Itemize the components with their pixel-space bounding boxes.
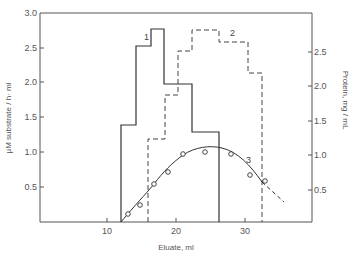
x-tick-10: 10 <box>102 226 112 236</box>
y-tick-1.5: 1.5 <box>24 112 37 122</box>
y2-tick-2.5: 2.5 <box>314 47 327 57</box>
left-y-axis-labels: 0.5 1.0 1.5 2.0 2.5 3.0 <box>24 8 37 192</box>
y-tick-1.0: 1.0 <box>24 147 37 157</box>
y2-tick-0.5: 0.5 <box>314 185 327 195</box>
series-3-curve <box>121 147 262 222</box>
marker <box>203 150 208 155</box>
marker <box>126 212 131 217</box>
y-tick-3.0: 3.0 <box>24 8 37 18</box>
marker <box>181 152 186 157</box>
right-y-axis-ticks <box>308 52 312 190</box>
y2-tick-2.0: 2.0 <box>314 81 327 91</box>
series-2-step-line <box>148 30 262 222</box>
series-1-label: 1 <box>144 32 149 42</box>
x-axis-labels: 10 20 30 <box>102 226 250 236</box>
marker <box>166 170 171 175</box>
y-tick-2.0: 2.0 <box>24 77 37 87</box>
series-2-label: 2 <box>230 28 235 38</box>
series-3-label: 3 <box>246 155 251 165</box>
x-tick-30: 30 <box>240 226 250 236</box>
x-tick-20: 20 <box>171 226 181 236</box>
marker <box>263 179 268 184</box>
y2-tick-1.5: 1.5 <box>314 116 327 126</box>
elution-chart: 0.5 1.0 1.5 2.0 2.5 3.0 0.5 1.0 1.5 2.0 … <box>0 0 351 256</box>
marker <box>229 152 234 157</box>
x-axis-ticks <box>107 218 245 222</box>
left-y-axis-ticks <box>40 48 44 187</box>
marker <box>152 182 157 187</box>
marker <box>138 203 143 208</box>
plot-frame <box>40 13 312 222</box>
series-1-step-line <box>121 29 219 222</box>
marker <box>248 173 253 178</box>
left-y-axis-title: μM substrate / h· ml <box>4 82 13 153</box>
y2-tick-1.0: 1.0 <box>314 150 327 160</box>
y-tick-0.5: 0.5 <box>24 182 37 192</box>
right-y-axis-labels: 0.5 1.0 1.5 2.0 2.5 <box>314 47 327 195</box>
right-y-axis-title: Protein, mg / mL <box>341 71 350 130</box>
y-tick-2.5: 2.5 <box>24 43 37 53</box>
x-axis-title: Eluate, ml <box>158 243 194 252</box>
series-3-dashed-tail <box>262 182 284 202</box>
